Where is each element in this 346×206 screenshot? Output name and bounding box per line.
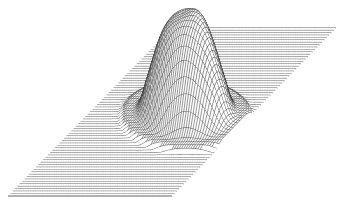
surface-plot bbox=[0, 0, 346, 206]
